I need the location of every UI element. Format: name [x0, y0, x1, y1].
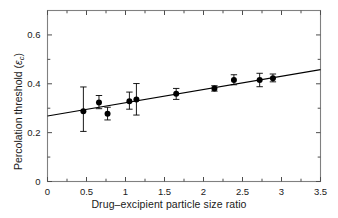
- regression-fit-line: [48, 70, 321, 116]
- x-tick-label: 1: [123, 187, 128, 197]
- epsilon-symbol: ε: [12, 60, 24, 65]
- data-point: [80, 108, 86, 114]
- x-tick-label: 1.5: [158, 187, 171, 197]
- data-point: [231, 77, 237, 83]
- plot-frame: [48, 11, 321, 182]
- y-axis-title: Percolation threshold (εc): [12, 53, 26, 170]
- x-axis-title: Drug–excipient particle size ratio: [0, 198, 338, 210]
- data-point: [96, 100, 102, 106]
- data-point: [173, 91, 179, 97]
- epsilon-subscript: c: [17, 57, 26, 61]
- x-tick-label: 0.5: [80, 187, 93, 197]
- x-tick-label: 2: [201, 187, 206, 197]
- data-point: [211, 85, 217, 91]
- percolation-threshold-chart: 00.511.522.533.5 00.20.40.6 Drug–excipie…: [0, 0, 338, 218]
- fit-line: [48, 70, 321, 116]
- data-point: [270, 75, 276, 81]
- x-tick-label: 3: [279, 187, 284, 197]
- plot-border: [48, 11, 321, 182]
- data-point-markers: [80, 75, 276, 117]
- x-tick-label: 0: [45, 187, 50, 197]
- data-point: [133, 96, 139, 102]
- y-axis-title-text: Percolation threshold (: [12, 65, 24, 170]
- data-point: [105, 111, 111, 117]
- axis-tick-marks: [48, 11, 321, 182]
- y-tick-label: 0: [0, 177, 41, 187]
- x-tick-label: 2.5: [236, 187, 249, 197]
- y-axis-title-close: ): [12, 53, 24, 57]
- data-point: [257, 77, 263, 83]
- y-tick-label: 0.6: [0, 30, 41, 40]
- x-tick-label: 3.5: [314, 187, 327, 197]
- data-point: [126, 98, 132, 104]
